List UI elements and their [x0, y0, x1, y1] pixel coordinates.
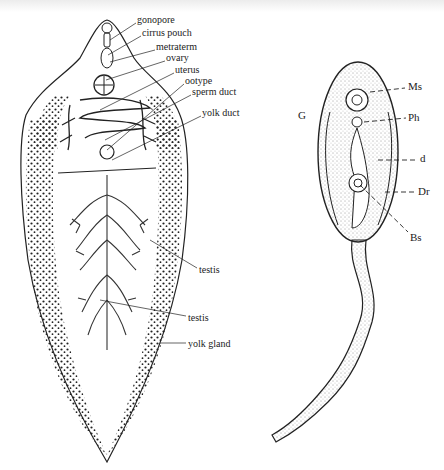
pharynx-ph — [352, 117, 362, 127]
label-d: d — [420, 153, 426, 164]
label-testis-lower: testis — [188, 312, 209, 323]
diagram-canvas — [0, 0, 444, 470]
label-yolk-duct: yolk duct — [202, 107, 240, 118]
label-ootype: ootype — [185, 75, 212, 86]
label-yolk-gland: yolk gland — [188, 338, 231, 349]
label-cirrus-pouch: cirrus pouch — [142, 27, 192, 38]
label-metraterm: metraterm — [156, 41, 197, 52]
label-testis-upper: testis — [199, 264, 220, 275]
label-ms: Ms — [408, 81, 422, 92]
label-bs: Bs — [410, 232, 422, 243]
label-ovary: ovary — [166, 52, 189, 63]
fluke-body — [21, 20, 201, 462]
label-g: G — [298, 110, 306, 121]
label-dr: Dr — [418, 186, 430, 197]
cercaria — [272, 62, 415, 442]
ventral-sucker-bs — [349, 174, 367, 192]
label-uterus: uterus — [175, 64, 199, 75]
oral-sucker-ms — [346, 89, 368, 111]
cercaria-tail — [272, 240, 374, 442]
label-sperm-duct: sperm duct — [192, 86, 236, 97]
label-ph: Ph — [408, 112, 420, 123]
label-gonopore: gonopore — [137, 14, 175, 25]
